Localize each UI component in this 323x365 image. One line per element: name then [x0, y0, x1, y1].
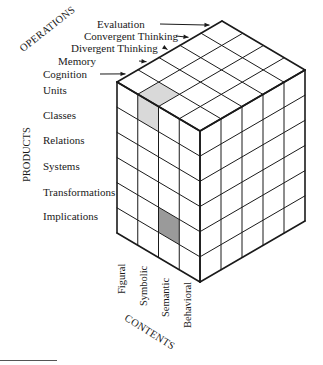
product-label-systems: Systems [43, 161, 80, 172]
product-label-units: Units [43, 85, 67, 96]
content-label-figural: Figural [117, 264, 128, 294]
content-label-behavioral: Behavioral [183, 282, 194, 328]
operation-label-convergent-thinking: Convergent Thinking [84, 31, 178, 42]
product-label-implications: Implications [43, 211, 98, 222]
products-axis-title: PRODUCTS [22, 127, 33, 182]
operation-label-evaluation: Evaluation [97, 19, 145, 30]
content-label-semantic: Semantic [161, 278, 172, 317]
operation-label-divergent-thinking: Divergent Thinking [71, 43, 158, 54]
product-label-relations: Relations [43, 135, 85, 146]
content-label-symbolic: Symbolic [139, 266, 150, 306]
operation-label-cognition: Cognition [43, 69, 87, 80]
operation-label-memory: Memory [58, 56, 96, 67]
footnote-rule [0, 360, 57, 361]
product-label-classes: Classes [43, 110, 76, 121]
product-label-transformations: Transformations [43, 187, 115, 198]
